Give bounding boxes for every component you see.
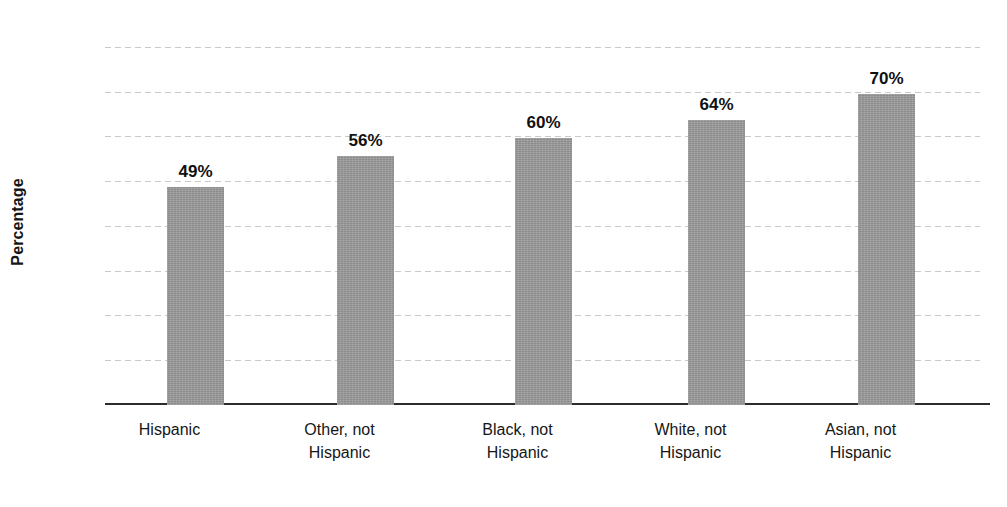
bar-hispanic[interactable]: 49% xyxy=(167,187,224,405)
bar-group-black-not-hispanic[interactable]: 60% xyxy=(515,47,572,405)
bar-group-other-not-hispanic[interactable]: 56% xyxy=(337,47,394,405)
x-tick-white-not-hispanic-line2: Hispanic xyxy=(628,441,753,464)
x-tick-white-not-hispanic-line1: White, not xyxy=(654,421,726,438)
x-tick-asian-not-hispanic: Asian, not Hispanic xyxy=(798,418,923,464)
bar-value-asian-not-hispanic: 70% xyxy=(836,70,937,87)
x-tick-hispanic-line1: Hispanic xyxy=(139,421,200,438)
bar-group-white-not-hispanic[interactable]: 64% xyxy=(688,47,745,405)
x-tick-black-not-hispanic: Black, not Hispanic xyxy=(455,418,580,464)
plot-area: 49% 56% 60% 64% 70% xyxy=(105,47,980,405)
x-tick-black-not-hispanic-line1: Black, not xyxy=(482,421,552,438)
x-tick-asian-not-hispanic-line2: Hispanic xyxy=(798,441,923,464)
bar-value-hispanic: 49% xyxy=(145,163,246,180)
x-tick-asian-not-hispanic-line1: Asian, not xyxy=(825,421,896,438)
y-axis-title: Percentage xyxy=(9,167,27,277)
bar-chart: Percentage 80 70 60 50 40 30 20 10 0 49%… xyxy=(0,0,1007,507)
x-tick-white-not-hispanic: White, not Hispanic xyxy=(628,418,753,464)
x-tick-other-not-hispanic-line1: Other, not xyxy=(304,421,374,438)
x-tick-other-not-hispanic-line2: Hispanic xyxy=(277,441,402,464)
x-tick-hispanic: Hispanic xyxy=(107,418,232,441)
bar-group-hispanic[interactable]: 49% xyxy=(167,47,224,405)
bar-black-not-hispanic[interactable]: 60% xyxy=(515,138,572,405)
bar-asian-not-hispanic[interactable]: 70% xyxy=(858,94,915,406)
x-tick-black-not-hispanic-line2: Hispanic xyxy=(455,441,580,464)
bar-value-other-not-hispanic: 56% xyxy=(315,132,416,149)
bar-other-not-hispanic[interactable]: 56% xyxy=(337,156,394,405)
bar-group-asian-not-hispanic[interactable]: 70% xyxy=(858,47,915,405)
bar-white-not-hispanic[interactable]: 64% xyxy=(688,120,745,405)
bar-value-white-not-hispanic: 64% xyxy=(666,96,767,113)
bar-value-black-not-hispanic: 60% xyxy=(493,114,594,131)
x-tick-other-not-hispanic: Other, not Hispanic xyxy=(277,418,402,464)
